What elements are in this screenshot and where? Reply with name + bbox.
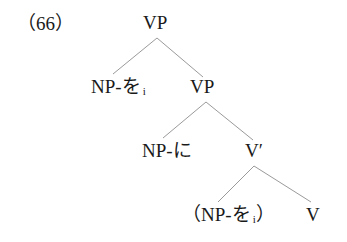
edge-vp-to-np-wo [113, 38, 157, 74]
node-vp-root: VP [143, 12, 167, 34]
edge-vbar-to-np-wo-trace [218, 166, 254, 202]
node-label: VP [190, 76, 214, 97]
edge-vp-to-vp [157, 38, 203, 77]
node-np-wo-trace: （NP-をi） [182, 204, 275, 230]
close-paren: ） [256, 204, 275, 225]
edge-vp-to-np-ni [163, 102, 206, 138]
node-label: （NP-を [182, 204, 251, 225]
edge-vbar-to-v [254, 166, 311, 202]
node-label: NP-を [91, 76, 141, 97]
node-label: VP [143, 12, 167, 33]
node-vp-inner: VP [190, 76, 214, 98]
node-np-wo: NP-をi [91, 76, 146, 102]
node-v-bar: V′ [245, 140, 263, 162]
node-np-ni: NP-に [142, 140, 192, 162]
edge-vp-to-vbar [206, 102, 253, 140]
node-v: V [306, 204, 320, 226]
node-label: NP-に [142, 140, 192, 161]
node-label: V [306, 204, 320, 225]
node-label: V′ [245, 140, 263, 161]
index-subscript: i [143, 85, 146, 97]
tree-edges [0, 0, 347, 242]
